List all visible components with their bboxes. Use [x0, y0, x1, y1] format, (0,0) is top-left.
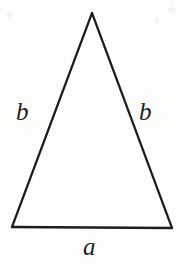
triangle-base-side	[12, 227, 172, 228]
triangle-right-side	[92, 13, 172, 228]
side-label-base-a: a	[83, 234, 96, 259]
side-label-right-b: b	[139, 99, 152, 124]
triangle-drawing	[0, 0, 183, 266]
geometry-figure-canvas: b b a	[0, 0, 183, 266]
side-label-left-b: b	[16, 99, 29, 124]
